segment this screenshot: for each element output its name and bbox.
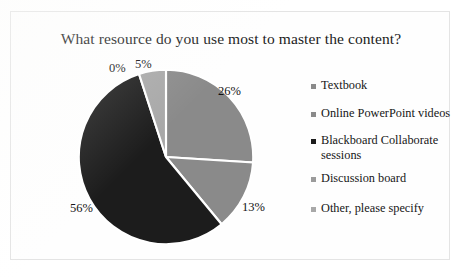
legend-item-label: Other, please specify [321,201,424,216]
legend-item-textbook[interactable]: Textbook [311,78,456,93]
legend-swatch-icon [311,177,316,182]
pie-label-textbook: 26% [218,84,241,99]
chart-frame: What resource do you use most to master … [10,11,450,260]
legend-swatch-icon [311,84,316,89]
legend-swatch-icon [311,207,316,212]
legend-item-label: Discussion board [321,171,406,186]
pie-label-blackboard-collaborate-sessions: 56% [70,201,93,216]
legend-item-other-please-specify[interactable]: Other, please specify [311,201,456,216]
legend-item-discussion-board[interactable]: Discussion board [311,171,456,186]
pie-label-discussion-board: 0% [109,61,126,76]
legend-item-label: Online PowerPoint videos [321,106,450,121]
pie-label-online-powerpoint-videos: 13% [242,200,265,215]
legend-item-blackboard-collaborate-sessions[interactable]: Blackboard Collaborate sessions [311,133,456,162]
legend-item-online-powerpoint-videos[interactable]: Online PowerPoint videos [311,106,456,121]
legend-item-label: Textbook [321,78,367,93]
legend-swatch-icon [311,139,316,144]
legend-item-label: Blackboard Collaborate sessions [321,133,456,162]
chart-title: What resource do you use most to master … [11,30,451,48]
chart-legend: Textbook Online PowerPoint videos Blackb… [311,78,456,215]
legend-swatch-icon [311,112,316,117]
pie-label-other-please-specify: 5% [135,57,152,72]
